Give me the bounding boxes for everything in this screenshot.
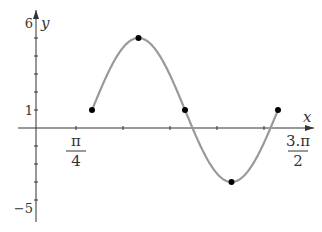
key-points — [89, 35, 281, 185]
x-axis-label: x — [303, 108, 312, 126]
x-tick-label-denominator: 4 — [71, 152, 81, 170]
data-point — [229, 179, 235, 185]
y-axis-arrow — [33, 10, 39, 19]
labels: 61−5xyπ43.π2 — [14, 14, 312, 216]
axes — [18, 10, 314, 222]
y-tick-label: 1 — [25, 103, 33, 118]
data-point — [136, 35, 142, 41]
x-tick-label-numerator: 3.π — [286, 132, 310, 150]
x-tick-label-numerator: π — [71, 132, 81, 150]
chart: 61−5xyπ43.π2 — [0, 0, 322, 232]
data-point — [275, 107, 281, 113]
y-axis-label: y — [40, 14, 50, 32]
x-tick-label-denominator: 2 — [293, 152, 303, 170]
ticks — [34, 38, 264, 200]
data-point — [182, 107, 188, 113]
y-tick-label: −5 — [14, 201, 33, 216]
y-tick-label: 6 — [25, 16, 33, 31]
data-point — [89, 107, 95, 113]
